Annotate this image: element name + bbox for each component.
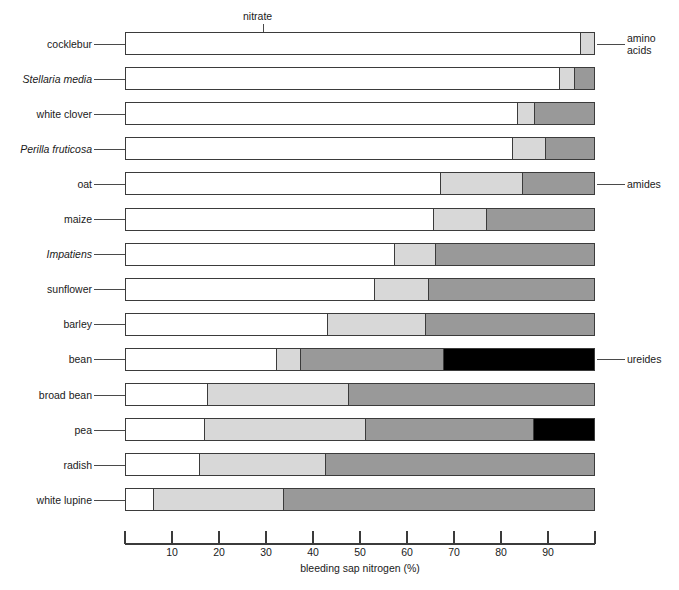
bar-segment-nitrate [126,384,207,405]
bar-segment-nitrate [126,244,394,265]
bar-segment-nitrate [126,489,153,510]
bar-row: white clover [0,102,679,128]
bar-segment-amides [425,314,594,335]
bar-row-label: broad bean [39,382,92,408]
annotation-amino-acids-leader-line [597,44,625,45]
bar-segment-amides [522,173,594,194]
x-axis-tick-label: 40 [293,546,333,558]
stacked-bar [125,102,595,125]
bar-segment-nitrate [126,173,440,194]
bar-row-leader-line [94,114,125,115]
x-axis-tick [547,531,548,544]
bar-segment-amino-acids [517,103,534,124]
x-axis-tick [124,531,125,544]
bar-row: Stellaria media [0,67,679,93]
bar-segment-amides [534,103,594,124]
bar-row: pea [0,418,679,444]
bar-segment-amino-acids [199,454,325,475]
bar-row: bean [0,348,679,374]
bar-segment-amides [545,138,594,159]
bar-row-label: cocklebur [47,31,92,57]
bar-row-leader-line [94,395,125,396]
bar-row: radish [0,453,679,479]
bar-row-leader-line [94,465,125,466]
x-axis-tick [218,531,219,544]
bar-row-label: barley [63,311,92,337]
x-axis-tick [171,531,172,544]
annotation-amino-acids-line2: acids [627,44,652,56]
bar-segment-nitrate [126,314,327,335]
annotation-amides-leader-line [597,184,625,185]
bar-segment-amino-acids [327,314,424,335]
bar-row-leader-line [94,219,125,220]
bar-segment-amino-acids [394,244,435,265]
x-axis-tick [453,531,454,544]
stacked-bar [125,243,595,266]
stacked-bar [125,172,595,195]
bar-segment-ureides [443,349,594,370]
x-axis-tick-label: 50 [340,546,380,558]
bar-segment-amino-acids [207,384,348,405]
bar-segment-amides [300,349,443,370]
bar-row-label: white clover [37,101,92,127]
bar-segment-amino-acids [559,68,574,89]
bar-row-label: maize [64,206,92,232]
bar-row-leader-line [94,254,125,255]
stacked-bar [125,383,595,406]
bar-segment-nitrate [126,68,559,89]
bar-row: broad bean [0,383,679,409]
bar-segment-amides [348,384,594,405]
stacked-bar [125,208,595,231]
annotation-nitrate-leader-line [263,24,264,32]
bar-segment-amides [428,279,594,300]
bar-row: barley [0,313,679,339]
annotation-amino-acids-line1: amino [627,32,656,44]
x-axis-label: bleeding sap nitrogen (%) [21,562,679,574]
stacked-bar [125,32,595,55]
bar-segment-nitrate [126,33,580,54]
bar-row-leader-line [94,324,125,325]
x-axis-tick-label: 30 [246,546,286,558]
bar-segment-nitrate [126,138,512,159]
bar-segment-amides [574,68,594,89]
bar-row-label: Perilla fruticosa [20,136,92,162]
bar-row-label: bean [69,346,92,372]
bar-segment-amino-acids [512,138,545,159]
bar-row-leader-line [94,430,125,431]
bar-segment-amides [283,489,594,510]
bar-segment-amino-acids [374,279,428,300]
bar-row: Perilla fruticosa [0,137,679,163]
stacked-bar [125,488,595,511]
bar-row-leader-line [94,44,125,45]
bar-row: oat [0,172,679,198]
x-axis-tick-label: 10 [152,546,192,558]
bar-row-leader-line [94,149,125,150]
bar-row-label: pea [74,417,92,443]
bar-row-label: radish [63,452,92,478]
bar-segment-amides [435,244,594,265]
bar-row-label: oat [77,171,92,197]
bar-segment-nitrate [126,279,374,300]
x-axis-tick [500,531,501,544]
annotation-nitrate: nitrate [243,10,272,22]
bar-segment-amides [486,209,594,230]
x-axis-tick-label: 20 [199,546,239,558]
stacked-bar-chart: nitrate cockleburStellaria mediawhite cl… [0,0,679,590]
bar-row-leader-line [94,289,125,290]
bar-row-label: sunflower [47,276,92,302]
bar-segment-amino-acids [433,209,486,230]
x-axis-tick [312,531,313,544]
x-axis-tick [359,531,360,544]
x-axis-tick-label: 60 [387,546,427,558]
bar-row-leader-line [94,500,125,501]
annotation-ureides-leader-line [597,359,625,360]
bar-segment-ureides [533,419,594,440]
bar-segment-amino-acids [440,173,523,194]
x-axis-tick-label: 80 [481,546,521,558]
bar-row: maize [0,208,679,234]
bar-segment-amino-acids [580,33,594,54]
stacked-bar [125,348,595,371]
bar-segment-nitrate [126,454,199,475]
annotation-amino-acids: amino acids [627,32,656,56]
bar-row-label: Stellaria media [23,66,92,92]
